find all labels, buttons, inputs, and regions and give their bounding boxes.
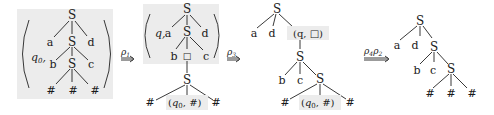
node-root: S: [273, 2, 281, 16]
node-b: b: [170, 50, 177, 63]
node-b: b: [413, 64, 420, 77]
state-node: (q, □): [293, 28, 323, 39]
leaf-hash: #: [345, 96, 354, 109]
derivation-diagram: q0, S a S d b S c # # # ρ1 q,: [0, 0, 494, 115]
node-mid: S: [183, 25, 191, 39]
node-c: c: [430, 64, 436, 77]
tree-4: S a d S b c S # # #: [394, 14, 477, 100]
leaf-hash: #: [145, 96, 154, 109]
arrow-head-icon: [130, 56, 134, 62]
node-low: S: [316, 72, 324, 86]
node-low: S: [447, 62, 455, 76]
leaf-hash: #: [46, 84, 55, 97]
arrow-rho1: ρ1: [120, 47, 134, 62]
tree-3: S a d (q, □) S b c S # (q0, #) #: [251, 2, 355, 110]
node-d: d: [411, 39, 418, 52]
node-b: b: [278, 74, 285, 87]
node-root: S: [183, 2, 191, 16]
node-d: d: [87, 36, 94, 49]
node-mid: S: [296, 50, 304, 64]
node-mid: S: [68, 35, 76, 49]
arrow-head-icon: [385, 56, 389, 62]
leaf-hash: #: [90, 84, 99, 97]
node-mid: S: [430, 40, 438, 54]
leaf-hash: #: [211, 96, 220, 109]
tree-2: q, S a S d b □ c S # (q0, #) #: [143, 2, 221, 110]
node-d: d: [268, 27, 275, 40]
leaf-hash: #: [280, 96, 289, 109]
leaf-hash: #: [446, 87, 455, 100]
leaf-hash: #: [425, 87, 434, 100]
node-low: S: [183, 73, 191, 87]
node-c: c: [297, 74, 303, 87]
arrow-rho3: ρ3: [226, 47, 240, 62]
leaf-hash: #: [467, 87, 476, 100]
node-c: c: [203, 50, 209, 63]
arrow-rho4-rho2: ρ4ρ2: [363, 46, 389, 62]
node-b: b: [49, 58, 56, 71]
leaf-hash: #: [68, 84, 77, 97]
node-root: S: [68, 8, 76, 22]
node-low: S: [68, 57, 76, 71]
arrow-label: ρ4ρ2: [363, 46, 382, 57]
arrow-label: ρ3: [226, 47, 236, 58]
hole-box-icon: □: [183, 51, 192, 61]
node-root: S: [416, 14, 424, 28]
node-d: d: [201, 27, 208, 40]
node-a: a: [394, 39, 401, 52]
arrow-label: ρ1: [120, 47, 130, 58]
node-a: a: [165, 27, 172, 40]
node-c: c: [88, 58, 94, 71]
arrow-head-icon: [236, 56, 240, 62]
node-a: a: [251, 27, 258, 40]
node-a: a: [47, 36, 54, 49]
tree-1: q0, S a S d b S c # # #: [17, 8, 113, 99]
